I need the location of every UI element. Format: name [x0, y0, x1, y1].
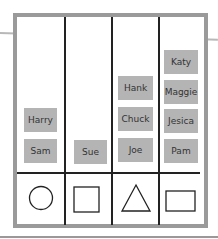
name-card: Sue: [74, 140, 107, 164]
column-divider-3: [158, 17, 160, 225]
name-card: Katy: [164, 50, 198, 74]
name-card: Hank: [118, 76, 153, 100]
name-card: Joe: [118, 138, 153, 162]
square-icon: [73, 186, 101, 214]
column-divider-1: [64, 17, 66, 225]
circle-icon: [28, 185, 54, 211]
name-card: Jesica: [164, 109, 198, 133]
column-divider-2: [111, 17, 113, 225]
name-card: Maggie: [164, 80, 198, 104]
name-card: Sam: [24, 139, 57, 163]
name-card: Harry: [24, 108, 57, 132]
rectangle-icon: [165, 190, 197, 212]
name-card: Chuck: [118, 107, 153, 131]
name-card: Pam: [164, 139, 198, 163]
page-edge-line: [0, 236, 218, 238]
row-divider: [17, 172, 200, 174]
triangle-icon: [120, 183, 152, 213]
